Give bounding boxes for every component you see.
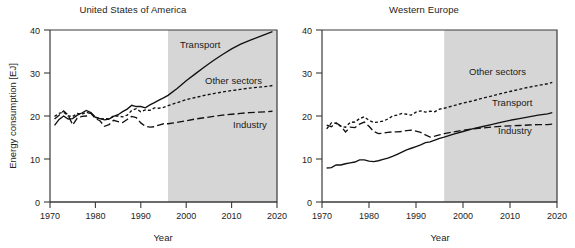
x-tick-label-1990-weu: 1990	[406, 211, 426, 221]
y-ticks-usa: 0 10 20 30 40	[30, 26, 50, 208]
plot-area-usa: 0 10 20 30 40 1970 1980 1990 2000 2010 2…	[0, 0, 290, 248]
x-tick-label-1990: 1990	[131, 211, 151, 221]
x-tick-label-2000-weu: 2000	[453, 211, 473, 221]
x-tick-label-1970: 1970	[40, 211, 60, 221]
y-tick-label-40: 40	[30, 26, 40, 36]
y-tick-label-10: 10	[30, 155, 40, 165]
projection-shading-usa	[168, 30, 277, 202]
chart-panel-usa: United States of America 0 10 20 30 40	[0, 0, 290, 248]
series-label-industry-usa: Industry	[233, 119, 267, 130]
series-label-other-sectors-usa: Other sectors	[205, 75, 262, 86]
plot-area-weu: 0 10 20 30 40 1970 1980 1990 2000 2010 2…	[285, 0, 575, 248]
x-axis-title-usa: Year	[153, 232, 172, 243]
x-tick-label-2010: 2010	[222, 211, 242, 221]
y-tick-label-30: 30	[30, 69, 40, 79]
x-tick-label-1970-weu: 1970	[312, 211, 332, 221]
x-tick-label-2020-weu: 2020	[547, 211, 567, 221]
x-tick-label-1980: 1980	[85, 211, 105, 221]
y-tick-label-0-weu: 0	[307, 198, 312, 208]
y-tick-label-0: 0	[35, 198, 40, 208]
x-tick-label-1980-weu: 1980	[359, 211, 379, 221]
y-tick-label-20-weu: 20	[302, 112, 312, 122]
figure-root: United States of America 0 10 20 30 40	[0, 0, 575, 248]
x-tick-label-2010-weu: 2010	[500, 211, 520, 221]
series-label-industry-weu: Industry	[498, 125, 532, 136]
projection-shading-weu	[444, 30, 557, 202]
y-axis-title: Energy consumption [EJ]	[7, 63, 18, 169]
y-tick-label-20: 20	[30, 112, 40, 122]
x-axis-title-weu: Year	[430, 232, 449, 243]
y-ticks-weu: 0 10 20 30 40	[302, 26, 322, 208]
series-label-other-sectors-weu: Other sectors	[469, 66, 526, 77]
series-label-transport-weu: Transport	[492, 97, 533, 108]
y-tick-label-10-weu: 10	[302, 155, 312, 165]
x-tick-label-2000: 2000	[176, 211, 196, 221]
y-tick-label-40-weu: 40	[302, 26, 312, 36]
chart-panel-weu: Western Europe 0 10 20 30 40	[285, 0, 575, 248]
series-label-transport-usa: Transport	[180, 39, 221, 50]
x-tick-label-2020: 2020	[267, 211, 287, 221]
y-tick-label-30-weu: 30	[302, 69, 312, 79]
x-ticks-usa: 1970 1980 1990 2000 2010 2020	[40, 202, 287, 221]
x-ticks-weu: 1970 1980 1990 2000 2010 2020	[312, 202, 567, 221]
